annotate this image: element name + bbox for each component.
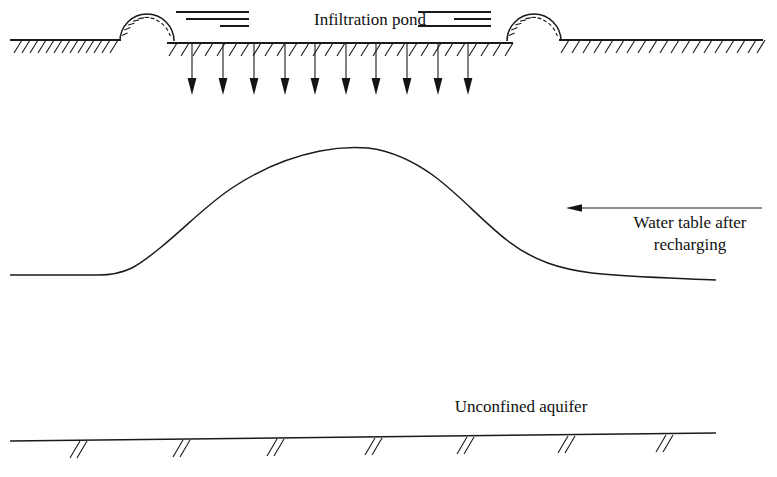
infiltration-pond-diagram: Infiltration pond (0, 0, 777, 477)
infiltration-arrow (281, 44, 290, 95)
water-table-label-line2: recharging (654, 235, 727, 254)
right-berm (507, 14, 561, 41)
hatch-right-segment (561, 40, 765, 53)
right-water-lines (418, 12, 491, 26)
infiltration-arrow (342, 44, 351, 95)
infiltration-arrow (250, 44, 259, 95)
infiltration-arrow (434, 44, 443, 95)
infiltration-arrows-group (188, 44, 473, 95)
infiltration-arrow (372, 44, 381, 95)
aquifer-base-line (10, 433, 716, 441)
right-berm-arc (507, 14, 561, 41)
hatch-left-segment (14, 40, 118, 53)
bedrock-slash-marks (70, 435, 673, 458)
diagram-canvas: Infiltration pond (0, 0, 777, 477)
water-table-label: Water table after recharging (634, 213, 747, 254)
left-water-lines (176, 12, 249, 26)
water-table-callout-arrow (566, 204, 762, 212)
hatch-pond-floor (169, 43, 513, 56)
infiltration-arrow (403, 44, 412, 95)
water-table-curve (10, 147, 716, 280)
aquifer-base-group (10, 433, 716, 458)
left-berm-arc (120, 14, 174, 41)
left-berm (120, 14, 174, 41)
water-table-label-line1: Water table after (634, 213, 747, 232)
infiltration-pond-label: Infiltration pond (314, 10, 426, 29)
infiltration-arrow (311, 44, 320, 95)
ground-surface-group (10, 40, 763, 43)
unconfined-aquifer-label: Unconfined aquifer (455, 397, 588, 416)
